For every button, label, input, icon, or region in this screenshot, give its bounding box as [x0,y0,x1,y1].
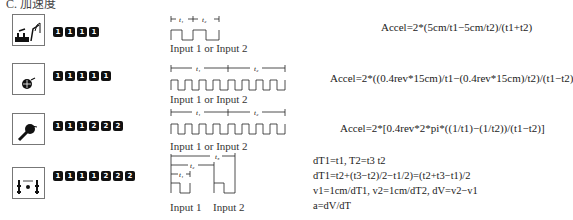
pulse-diagram: t₁ t₂ [170,14,230,44]
formula: Accel=2*[0.4rev*2*pi*((1/t1)−(1/t2))/(t1… [340,122,545,134]
key: 1 [89,27,99,37]
pulse-diagram: t₁ t₂ [170,64,288,94]
wave-label: Input 1 or Input 2 [170,140,248,152]
key: 1 [65,121,75,131]
key: 2 [113,171,123,181]
formula: Accel=2*((0.4rev*15cm)/t1−(0.4rev*15cm)/… [330,72,573,84]
formula-line: dT1=t2+(t3−t2)/2−t1/2)=(t2+t3−t1)/2 [313,168,478,183]
key: 1 [89,71,99,81]
wave-label-input-1: Input 1 [170,201,201,213]
timing-diagram: t₃ t₂ t₁ [170,153,245,197]
key: 1 [89,171,99,181]
key-sequence: 1 1 1 2 2 2 [53,121,123,131]
key: 1 [77,171,87,181]
formula-line: a=dV/dT [313,198,478,213]
formula-line: v1=1cm/dT1, v2=1cm/dT2, dV=v2−v1 [313,183,478,198]
svg-text:t₁: t₁ [179,16,183,24]
pulley-wheel-icon [12,63,45,95]
svg-text:t₂: t₂ [190,162,195,170]
key: 2 [125,171,135,181]
key: 1 [77,27,87,37]
svg-text:t₁: t₁ [179,171,183,179]
key: 1 [53,27,63,37]
rotary-sensor-icon [12,113,45,145]
two-gate-icon [12,167,45,199]
formula: Accel=2*(5cm/t1−5cm/t2)/(t1+t2) [381,21,532,33]
pulse-diagram: t₁ t₂ [170,108,288,138]
formula-line: dT1=t1, T2=t3 t2 [313,153,478,168]
svg-text:t₁: t₁ [196,109,200,117]
key: 1 [77,71,87,81]
key-sequence: 1 1 1 1 2 2 2 [53,171,135,181]
key-sequence: 1 1 1 1 1 [53,71,111,81]
key: 2 [113,121,123,131]
wave-label: Input 1 or Input 2 [170,42,248,54]
key: 1 [53,121,63,131]
key: 2 [101,171,111,181]
key: 1 [65,71,75,81]
key: 1 [65,171,75,181]
wave-label: Input 1 or Input 2 [170,93,248,105]
key: 2 [101,121,111,131]
key: 1 [53,171,63,181]
svg-text:t₃: t₃ [215,153,220,161]
key: 1 [65,27,75,37]
section-title: C. 加速度 [6,0,56,12]
formula-block: dT1=t1, T2=t3 t2 dT1=t2+(t3−t2)/2−t1/2)=… [313,153,478,213]
ramp-cart-icon [12,14,45,46]
key: 1 [77,121,87,131]
wave-label-input-2: Input 2 [213,201,244,213]
svg-text:t₂: t₂ [254,109,259,117]
svg-text:t₁: t₁ [196,65,200,73]
key-sequence: 1 1 1 1 [53,27,99,37]
key: 2 [89,121,99,131]
key: 1 [53,71,63,81]
svg-text:t₂: t₂ [202,16,207,24]
key: 1 [101,71,111,81]
svg-text:t₂: t₂ [254,65,259,73]
